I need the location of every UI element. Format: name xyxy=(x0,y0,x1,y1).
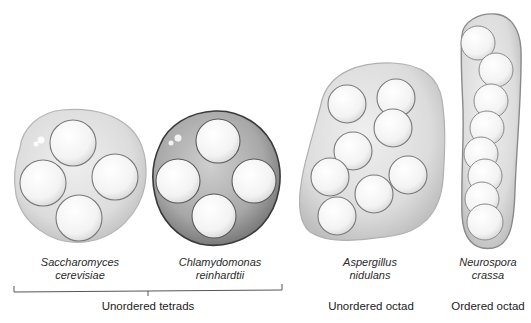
genus-name: Chlamydomonas xyxy=(170,256,270,269)
spore xyxy=(196,119,240,163)
species-name: reinhardtii xyxy=(170,269,270,282)
spore xyxy=(467,204,503,240)
spore xyxy=(92,154,138,200)
neurospora-ascus xyxy=(461,14,521,249)
saccharomyces-label: Saccharomyces cerevisiae xyxy=(30,256,130,282)
spore xyxy=(479,53,513,87)
aspergillus-label: Aspergillus nidulans xyxy=(320,256,420,282)
genus-name: Saccharomyces xyxy=(30,256,130,269)
neurospora-label: Neurospora crassa xyxy=(446,256,530,282)
species-name: crassa xyxy=(446,269,530,282)
spore xyxy=(389,156,427,194)
species-name: cerevisiae xyxy=(30,269,130,282)
spore xyxy=(156,159,200,203)
genus-name: Aspergillus xyxy=(320,256,420,269)
unordered-octad-label: Unordered octad xyxy=(316,300,426,313)
unordered-tetrads-bracket xyxy=(14,284,282,296)
chlamydomonas-ascus xyxy=(153,111,280,245)
spore xyxy=(192,194,236,238)
spore xyxy=(318,197,356,235)
ordered-octad-label: Ordered octad xyxy=(446,300,530,313)
aspergillus-ascus xyxy=(300,63,445,240)
spore xyxy=(20,160,66,206)
species-name: nidulans xyxy=(320,269,420,282)
unordered-tetrads-label: Unordered tetrads xyxy=(88,300,208,313)
spore xyxy=(50,120,96,166)
genus-name: Neurospora xyxy=(446,256,530,269)
spore xyxy=(355,175,393,213)
saccharomyces-ascus xyxy=(15,109,146,242)
spore xyxy=(311,158,349,196)
spore xyxy=(328,85,366,123)
spore xyxy=(56,195,102,241)
spore xyxy=(374,109,412,147)
chlamydomonas-label: Chlamydomonas reinhardtii xyxy=(170,256,270,282)
spore xyxy=(232,159,276,203)
